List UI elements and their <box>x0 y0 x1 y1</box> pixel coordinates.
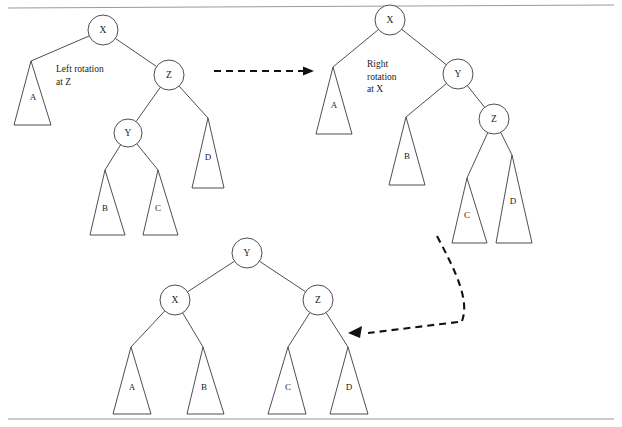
tree-node-label-x: X <box>387 15 394 25</box>
arrow-right-rotation-tail <box>368 322 458 333</box>
tree-before-rotation: ADBCXZY <box>14 15 224 235</box>
tree-edge-y-z <box>467 86 484 108</box>
avl-rotation-diagram: ADBCXZYABCDXYZABCDYXZ Left rotationat ZR… <box>0 0 622 427</box>
tree-edge-z-d <box>179 86 208 118</box>
arrow-right-rotation <box>348 236 464 338</box>
subtree-label-a: A <box>129 382 136 392</box>
left-rotation-caption-line-1: Left rotation <box>56 64 104 74</box>
right-rotation-caption-line-1: Right <box>367 59 388 69</box>
subtree-label-c: C <box>155 203 161 213</box>
tree-edge-y-b <box>406 84 446 117</box>
diagram-root: ADBCXZYABCDXYZABCDYXZ Left rotationat ZR… <box>0 0 622 427</box>
tree-after-left-rotation: ABCDXYZ <box>316 5 532 243</box>
top-rule <box>8 5 614 8</box>
subtree-label-b: B <box>102 203 108 213</box>
tree-edge-z-d <box>501 132 512 155</box>
subtree-triangle-b <box>187 347 224 414</box>
subtree-label-b: B <box>404 151 410 161</box>
tree-edge-y-b <box>105 145 121 170</box>
subtree-label-d: D <box>346 382 353 392</box>
left-rotation-caption: Left rotationat Z <box>56 64 104 87</box>
left-rotation-caption-line-2: at Z <box>56 77 71 87</box>
tree-edge-y-c <box>137 144 158 170</box>
right-rotation-caption-line-2: rotation <box>367 72 397 82</box>
tree-node-label-x: X <box>172 295 179 305</box>
subtree-label-d: D <box>205 152 212 162</box>
tree-after-right-rotation: ABCDYXZ <box>113 238 368 414</box>
subtree-label-a: A <box>331 100 338 110</box>
tree-edge-x-a <box>131 311 165 347</box>
subtree-triangle-c <box>268 347 306 414</box>
tree-node-label-y: Y <box>125 128 132 138</box>
tree-edge-x-z <box>115 38 156 66</box>
subtree-label-c: C <box>285 382 291 392</box>
tree-node-label-z: Z <box>315 295 321 305</box>
tree-edge-z-c <box>467 133 488 178</box>
tree-edge-x-y <box>402 29 447 64</box>
arrow-left-rotation-head <box>303 67 314 76</box>
tree-edge-z-c <box>288 313 310 347</box>
tree-edge-x-b <box>183 313 203 347</box>
tree-edge-y-x <box>188 261 235 292</box>
subtree-triangle-d <box>330 347 368 414</box>
right-rotation-caption-line-3: at X <box>367 84 383 94</box>
captions-layer: Left rotationat ZRightrotationat X <box>56 59 397 94</box>
tree-edge-y-z <box>260 261 306 291</box>
tree-edge-z-d <box>326 313 348 347</box>
subtree-triangle-a <box>113 347 151 414</box>
right-rotation-caption: Rightrotationat X <box>367 59 397 94</box>
tree-node-label-y: Y <box>244 248 251 258</box>
tree-node-label-z: Z <box>166 70 172 80</box>
subtree-label-b: B <box>201 382 207 392</box>
arrow-right-rotation-shaft <box>437 236 464 321</box>
arrow-left-rotation <box>214 67 314 76</box>
tree-node-label-y: Y <box>455 69 462 79</box>
arrow-right-rotation-head <box>348 326 362 338</box>
tree-edge-x-a <box>31 36 89 61</box>
subtree-label-d: D <box>510 196 517 206</box>
tree-edge-z-y <box>136 87 160 121</box>
subtree-label-c: C <box>464 210 470 220</box>
subtree-label-a: A <box>30 92 37 102</box>
tree-node-label-z: Z <box>491 114 497 124</box>
tree-node-label-x: X <box>100 25 107 35</box>
